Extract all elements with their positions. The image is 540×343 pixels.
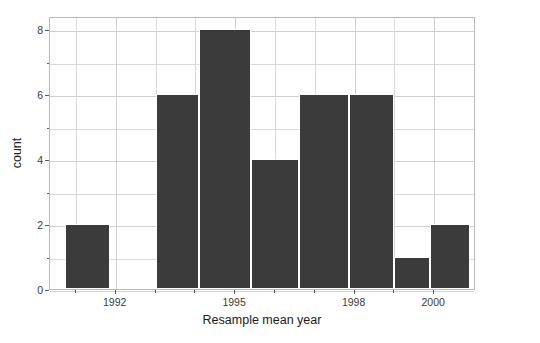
bar [251, 159, 299, 289]
y-tick-mark [45, 225, 49, 226]
bar [65, 224, 110, 289]
x-tick-label: 1992 [103, 296, 126, 308]
x-tick-label: 2000 [422, 296, 445, 308]
x-tick-mark [433, 290, 434, 294]
bar [394, 257, 430, 290]
x-tick-mark-minor [393, 290, 394, 293]
y-tick-mark [45, 30, 49, 31]
bar [349, 94, 395, 289]
x-tick-mark-minor [194, 290, 195, 293]
histogram-chart: Resample mean year count 199219951998200… [0, 0, 540, 343]
y-tick-mark-minor [47, 63, 50, 64]
bar [156, 94, 200, 289]
x-tick-label: 1995 [222, 296, 245, 308]
y-tick-label: 2 [37, 219, 43, 231]
y-tick-mark [45, 160, 49, 161]
y-tick-mark-minor [47, 193, 50, 194]
y-tick-label: 4 [37, 154, 43, 166]
x-tick-mark-minor [75, 290, 76, 293]
y-tick-mark [45, 95, 49, 96]
y-tick-label: 0 [37, 284, 43, 296]
y-tick-label: 8 [37, 24, 43, 36]
x-tick-mark-minor [274, 290, 275, 293]
x-axis-title: Resample mean year [49, 313, 475, 327]
x-tick-mark-minor [314, 290, 315, 293]
bar [299, 94, 349, 289]
y-axis-title: count [10, 138, 24, 169]
x-tick-mark [115, 290, 116, 294]
x-tick-mark [354, 290, 355, 294]
y-tick-mark [45, 290, 49, 291]
x-tick-label: 1998 [342, 296, 365, 308]
bar [430, 224, 470, 289]
plot-panel [49, 17, 475, 290]
x-tick-mark-minor [155, 290, 156, 293]
y-tick-mark-minor [47, 128, 50, 129]
bar [199, 29, 251, 289]
bar-series [50, 18, 474, 289]
y-tick-mark-minor [47, 258, 50, 259]
gridline-horizontal-major [50, 291, 474, 292]
y-tick-label: 6 [37, 89, 43, 101]
x-tick-mark [234, 290, 235, 294]
